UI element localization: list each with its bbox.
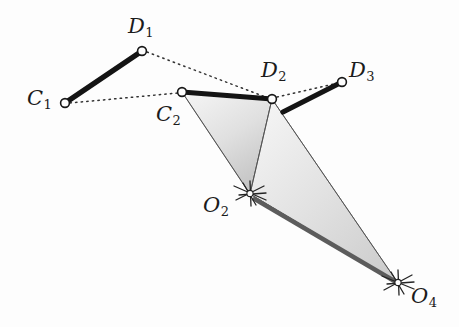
shaded-link-bodies bbox=[182, 92, 398, 283]
bar-C1-D1 bbox=[65, 51, 142, 103]
pivot-hole-o2 bbox=[247, 190, 253, 196]
label-d2: D2 bbox=[261, 60, 287, 83]
label-d3: D3 bbox=[349, 60, 375, 83]
kinematic-linkage-diagram: C1 C2 D1 D2 D3 O2 O4 bbox=[0, 0, 459, 327]
diagram-canvas bbox=[0, 0, 459, 327]
label-d1: D1 bbox=[128, 16, 154, 39]
label-c2: C2 bbox=[156, 104, 181, 127]
pivot-hole-o4 bbox=[395, 279, 401, 285]
label-o4: O4 bbox=[411, 286, 437, 309]
label-o2: O2 bbox=[203, 195, 229, 218]
dotted-D1-D2 bbox=[147, 52, 268, 98]
node-C1 bbox=[61, 99, 70, 108]
node-D2 bbox=[268, 95, 277, 104]
node-D3 bbox=[338, 78, 347, 87]
node-D1 bbox=[138, 47, 147, 56]
node-C2 bbox=[178, 88, 187, 97]
bar-D2ext-D3 bbox=[283, 82, 342, 112]
triangle-D2-O2-O4 bbox=[250, 99, 398, 283]
label-c1: C1 bbox=[27, 88, 52, 111]
